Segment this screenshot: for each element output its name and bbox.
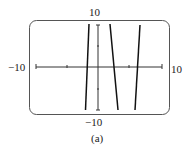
graphing-window	[0, 0, 188, 153]
xmax-label: 10	[171, 64, 182, 75]
figure-caption: (a)	[91, 133, 103, 144]
ymax-label: 10	[89, 7, 100, 18]
ymin-label: −10	[85, 117, 102, 128]
xmin-label: −10	[8, 62, 25, 73]
